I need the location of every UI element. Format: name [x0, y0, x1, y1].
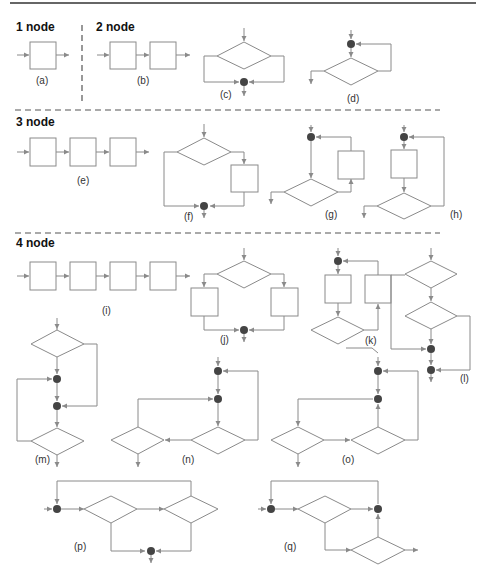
svg-text:(q): (q)	[284, 541, 296, 552]
diagram-i: (i)	[17, 262, 190, 316]
svg-text:(l): (l)	[460, 373, 469, 384]
svg-text:(k): (k)	[365, 335, 377, 346]
svg-text:(j): (j)	[220, 334, 229, 345]
control-flow-diagrams: 1 node 2 node 3 node 4 node (a) (b) (c) …	[0, 0, 485, 577]
diagram-m: (m)	[17, 329, 97, 467]
diagram-b: (b)	[97, 42, 190, 86]
diagram-g: (g)	[271, 125, 364, 220]
svg-text:(a): (a)	[36, 75, 48, 86]
svg-text:(m): (m)	[35, 454, 50, 465]
diagram-o: (o)	[271, 348, 418, 467]
section-title-1-node: 1 node	[16, 20, 55, 34]
svg-text:(c): (c)	[220, 89, 232, 100]
diagram-p: (p)	[44, 481, 218, 563]
diagram-h: (h)	[364, 125, 462, 220]
diagram-q: (q)	[258, 481, 418, 564]
diagram-k: (k)	[311, 248, 391, 346]
section-title-4-node: 4 node	[16, 236, 55, 250]
svg-text:(n): (n)	[182, 454, 194, 465]
diagram-n: (n)	[111, 357, 258, 467]
svg-text:(g): (g)	[325, 209, 337, 220]
diagram-j: (j)	[191, 248, 298, 345]
diagram-l: (l)	[391, 248, 470, 384]
svg-text:(f): (f)	[184, 211, 193, 222]
diagram-f: (f)	[164, 124, 258, 222]
section-title-3-node: 3 node	[16, 115, 55, 129]
section-title-2-node: 2 node	[96, 20, 135, 34]
diagram-e: (e)	[17, 138, 149, 186]
svg-text:(p): (p)	[74, 541, 86, 552]
diagram-c: (c)	[204, 28, 284, 100]
svg-text:(b): (b)	[137, 75, 149, 86]
svg-text:(i): (i)	[102, 305, 111, 316]
diagram-d: (d)	[311, 30, 391, 104]
svg-text:(e): (e)	[77, 175, 89, 186]
svg-text:(h): (h)	[450, 209, 462, 220]
svg-text:(d): (d)	[347, 93, 359, 104]
svg-text:(o): (o)	[342, 454, 354, 465]
diagram-a: (a)	[17, 42, 69, 86]
